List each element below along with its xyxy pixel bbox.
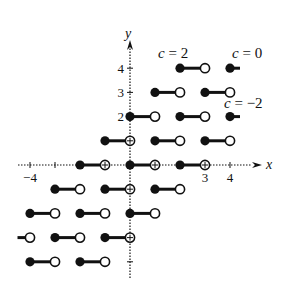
closed-endpoint-icon <box>75 160 84 169</box>
step-segment <box>175 112 209 121</box>
step-segment <box>175 160 209 169</box>
open-endpoint-icon <box>175 88 184 97</box>
open-endpoint-icon <box>25 233 34 242</box>
open-endpoint-icon <box>175 136 184 145</box>
step-segment <box>150 136 184 145</box>
open-endpoint-icon <box>175 185 184 194</box>
closed-endpoint-icon <box>125 160 134 169</box>
open-endpoint-icon <box>150 112 159 121</box>
step-segment <box>75 209 109 218</box>
step-segment <box>100 136 134 145</box>
step-segment <box>125 209 159 218</box>
open-endpoint-icon <box>225 136 234 145</box>
closed-endpoint-icon <box>150 136 159 145</box>
x-tick-label: 4 <box>227 170 234 185</box>
step-segment <box>125 160 159 169</box>
step-segment <box>150 185 184 194</box>
y-tick-label: 3 <box>118 85 125 100</box>
curve-label: c = −2 <box>224 95 263 111</box>
step-segment <box>125 112 159 121</box>
open-endpoint-icon <box>50 209 59 218</box>
closed-endpoint-icon <box>225 64 234 73</box>
x-axis-label: x <box>265 157 273 172</box>
step-segment <box>100 233 134 242</box>
step-segment <box>18 233 35 242</box>
x-tick-label: −4 <box>23 170 37 185</box>
open-endpoint-icon <box>75 185 84 194</box>
y-tick-label: 4 <box>118 61 125 76</box>
step-segment <box>75 257 109 266</box>
closed-endpoint-icon <box>150 185 159 194</box>
closed-endpoint-icon <box>25 257 34 266</box>
y-axis-label: y <box>123 26 132 41</box>
open-endpoint-icon <box>200 64 209 73</box>
closed-endpoint-icon <box>50 233 59 242</box>
step-segment <box>75 160 109 169</box>
closed-endpoint-icon <box>100 185 109 194</box>
step-segment <box>25 257 59 266</box>
step-segment <box>225 112 240 121</box>
open-endpoint-icon <box>50 257 59 266</box>
step-segment <box>50 185 84 194</box>
closed-endpoint-icon <box>200 136 209 145</box>
step-segment <box>200 136 234 145</box>
open-endpoint-icon <box>150 209 159 218</box>
closed-endpoint-icon <box>175 64 184 73</box>
closed-endpoint-icon <box>175 112 184 121</box>
closed-endpoint-icon <box>25 209 34 218</box>
closed-endpoint-icon <box>150 88 159 97</box>
step-segment <box>225 64 240 73</box>
open-endpoint-icon <box>100 257 109 266</box>
step-segment <box>175 64 209 73</box>
closed-endpoint-icon <box>50 185 59 194</box>
closed-endpoint-icon <box>200 88 209 97</box>
closed-endpoint-icon <box>100 136 109 145</box>
y-tick-label: 2 <box>118 109 125 124</box>
closed-endpoint-icon <box>100 233 109 242</box>
closed-endpoint-icon <box>125 209 134 218</box>
open-endpoint-icon <box>100 209 109 218</box>
step-function-plot: −434234xy c = 2c = 0c = −2 <box>0 0 284 293</box>
step-segment <box>50 233 84 242</box>
x-tick-label: 3 <box>202 170 209 185</box>
closed-endpoint-icon <box>125 112 134 121</box>
closed-endpoint-icon <box>175 160 184 169</box>
curve-labels: c = 2c = 0c = −2 <box>158 45 263 111</box>
open-endpoint-icon <box>75 233 84 242</box>
curve-label: c = 2 <box>158 45 188 61</box>
step-segment <box>150 88 184 97</box>
x-axis-arrow-icon <box>252 162 262 168</box>
closed-endpoint-icon <box>75 257 84 266</box>
closed-endpoint-icon <box>75 209 84 218</box>
step-function-figure: −434234xy c = 2c = 0c = −2 <box>0 0 284 293</box>
step-segment <box>100 185 134 194</box>
step-segments <box>18 64 241 267</box>
curve-label: c = 0 <box>232 45 262 61</box>
closed-endpoint-icon <box>225 112 234 121</box>
step-segment <box>25 209 59 218</box>
open-endpoint-icon <box>200 112 209 121</box>
